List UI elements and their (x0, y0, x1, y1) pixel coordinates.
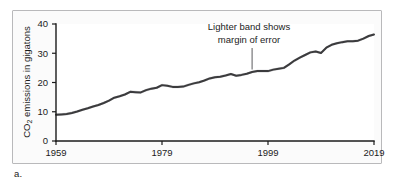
chart-frame (12, 10, 382, 164)
figure-caption: a. (14, 168, 22, 179)
figure-root: 010203040 1959197919992019 CO2 emissions… (0, 0, 395, 189)
